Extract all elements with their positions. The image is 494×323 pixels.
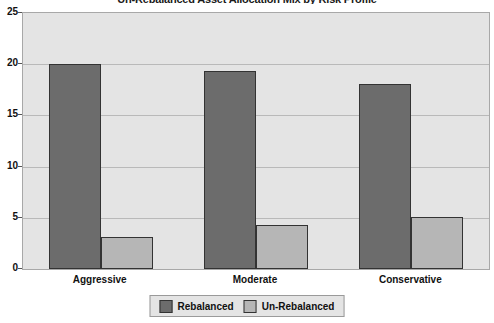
legend-label: Rebalanced xyxy=(178,300,234,313)
y-tick-label: 10 xyxy=(7,161,18,171)
bar-moderate-un-rebalanced xyxy=(256,225,308,269)
plot-area xyxy=(22,12,490,270)
bar-chart: Un-Rebalanced Asset Allocation Mix by Ri… xyxy=(0,0,494,323)
legend-entry-un-rebalanced[interactable]: Un-Rebalanced xyxy=(244,300,335,313)
bar-conservative-un-rebalanced xyxy=(411,217,463,269)
x-tick-label-aggressive: Aggressive xyxy=(73,274,127,285)
chart-legend: RebalancedUn-Rebalanced xyxy=(150,295,345,317)
x-tick-label-moderate: Moderate xyxy=(233,274,277,285)
y-tick-label: 25 xyxy=(7,7,18,17)
y-tick-label: 15 xyxy=(7,109,18,119)
legend-label: Un-Rebalanced xyxy=(262,300,335,313)
bar-aggressive-rebalanced xyxy=(49,64,101,269)
bar-conservative-rebalanced xyxy=(359,84,411,269)
legend-entry-rebalanced[interactable]: Rebalanced xyxy=(160,300,234,313)
bar-aggressive-un-rebalanced xyxy=(101,237,153,269)
legend-swatch-icon xyxy=(244,300,257,313)
y-axis: 0510152025 xyxy=(0,12,22,270)
chart-title: Un-Rebalanced Asset Allocation Mix by Ri… xyxy=(0,0,494,4)
x-axis: AggressiveModerateConservative xyxy=(22,272,490,290)
legend-swatch-icon xyxy=(160,300,173,313)
y-tick-label: 20 xyxy=(7,58,18,68)
x-tick-label-conservative: Conservative xyxy=(379,274,442,285)
bar-moderate-rebalanced xyxy=(204,71,256,269)
